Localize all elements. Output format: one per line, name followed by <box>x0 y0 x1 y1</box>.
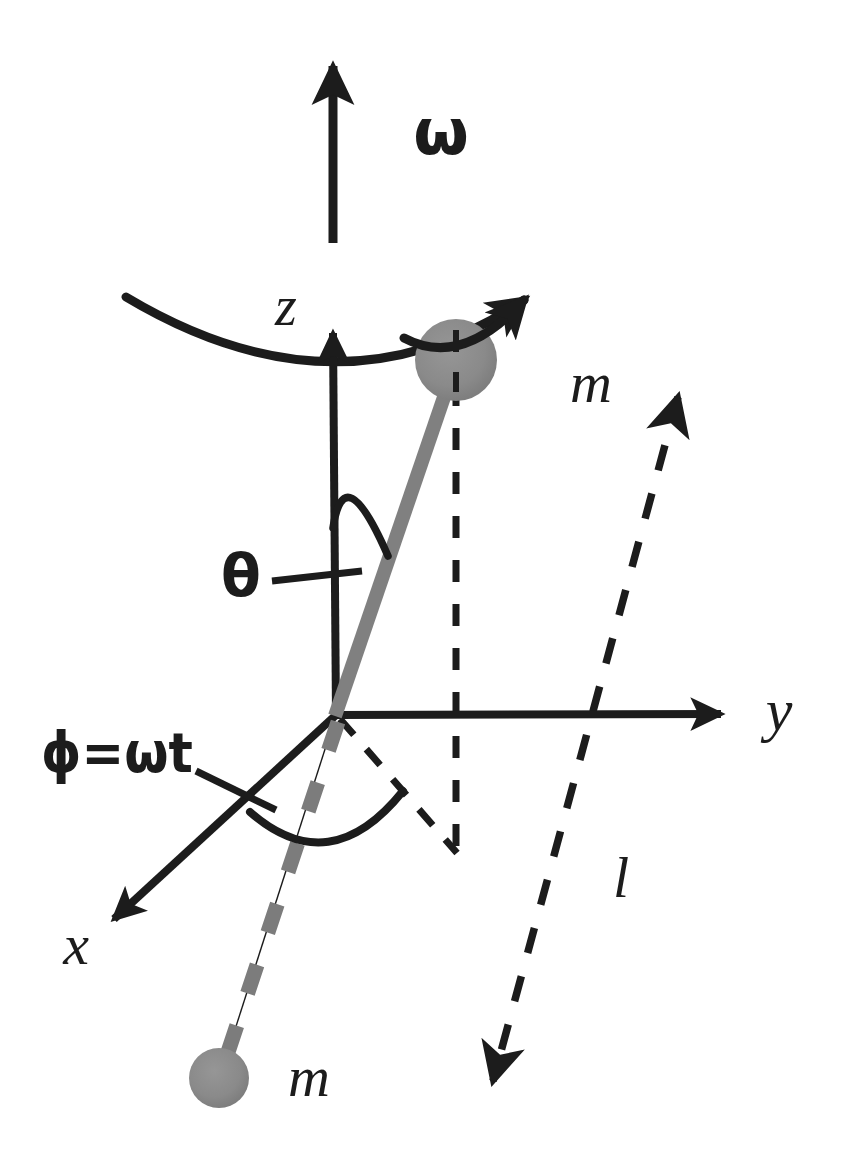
omega-label: ω <box>413 95 469 169</box>
theta-label: θ <box>221 542 261 610</box>
mass-lower-label: m <box>288 1044 330 1109</box>
physics-diagram-canvas: ω z y x θ ϕ=ωt m m l <box>0 0 846 1159</box>
mass-sphere-lower <box>189 1048 249 1108</box>
z-axis-label: z <box>274 275 297 337</box>
x-axis-label: x <box>62 912 89 977</box>
background <box>0 0 846 1159</box>
conical-pendulum-figure: ω z y x θ ϕ=ωt m m l <box>0 0 846 1159</box>
y-axis <box>336 714 721 715</box>
mass-upper-label: m <box>570 350 612 415</box>
phi-equals-omega-t-label: ϕ=ωt <box>41 720 193 785</box>
length-l-label: l <box>613 845 629 910</box>
